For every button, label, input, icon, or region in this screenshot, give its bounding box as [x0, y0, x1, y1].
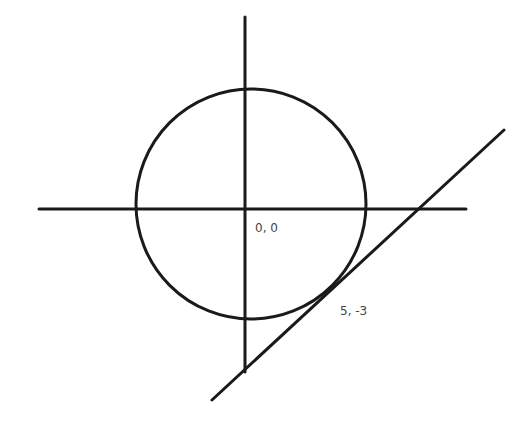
tangent-line — [212, 130, 504, 400]
diagram-canvas: 0, 0 5, -3 — [0, 0, 528, 429]
tangent-point-label: 5, -3 — [340, 304, 367, 318]
origin-label: 0, 0 — [255, 221, 278, 235]
circle — [136, 89, 366, 319]
